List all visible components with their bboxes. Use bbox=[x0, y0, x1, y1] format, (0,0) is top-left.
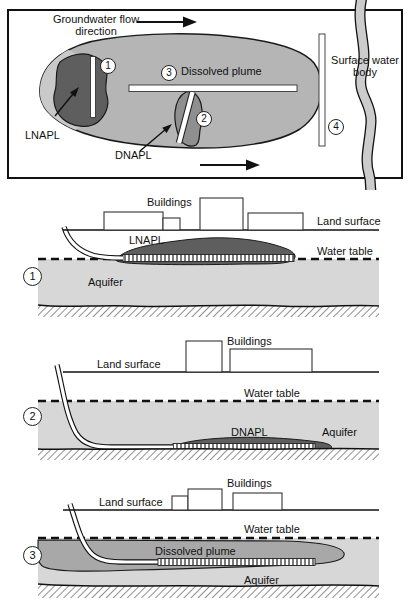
buildings-label-1: Buildings bbox=[147, 196, 192, 208]
aquifer-label-1: Aquifer bbox=[88, 276, 123, 288]
land-surface-label-2: Land surface bbox=[97, 358, 161, 370]
land-surface-label-1: Land surface bbox=[317, 215, 381, 227]
building-shape bbox=[186, 341, 222, 372]
section-2-svg bbox=[0, 330, 413, 470]
lnapl-label-plan: LNAPL bbox=[25, 129, 60, 141]
building-shape bbox=[104, 212, 163, 230]
contaminant-label-3: Dissolved plume bbox=[155, 545, 236, 557]
dissolved-plume-label-plan: Dissolved plume bbox=[181, 65, 262, 77]
well-3-bar bbox=[129, 85, 297, 92]
building-shape bbox=[163, 218, 180, 230]
water-table-label-1: Water table bbox=[317, 245, 373, 257]
aquifer-label-2: Aquifer bbox=[322, 426, 357, 438]
building-shape bbox=[200, 198, 243, 230]
building-shape bbox=[233, 493, 282, 510]
bedrock-hatch bbox=[38, 448, 379, 460]
well-1-badge: 1 bbox=[100, 58, 116, 74]
section-1-badge: 1 bbox=[23, 267, 42, 286]
well-screen bbox=[123, 255, 294, 262]
well-2-badge: 2 bbox=[196, 111, 212, 127]
land-surface-label-3: Land surface bbox=[99, 496, 163, 508]
well-pipe bbox=[64, 227, 123, 258]
well-screen bbox=[158, 559, 315, 566]
section-3-svg bbox=[0, 470, 413, 609]
building-shape bbox=[248, 213, 303, 230]
groundwater-flow-label: Groundwater flow direction bbox=[40, 13, 152, 37]
well-4-badge: 4 bbox=[328, 119, 344, 135]
contaminant-label-1: LNAPL bbox=[129, 234, 164, 246]
surface-water-label: Surface water body bbox=[325, 54, 405, 78]
well-4-bar bbox=[319, 34, 325, 146]
water-table-label-3: Water table bbox=[244, 523, 300, 535]
buildings-label-3: Buildings bbox=[227, 477, 272, 489]
building-shape bbox=[230, 349, 312, 372]
section-3-badge: 3 bbox=[23, 546, 42, 565]
aquifer-label-3: Aquifer bbox=[244, 574, 279, 586]
building-shape bbox=[188, 489, 222, 510]
contaminant-label-2: DNAPL bbox=[231, 426, 268, 438]
water-table-label-2: Water table bbox=[244, 387, 300, 399]
well-3-badge: 3 bbox=[161, 65, 177, 81]
figure-groundwater-remediation: Groundwater flow direction Dissolved plu… bbox=[0, 0, 413, 609]
well-1-bar bbox=[91, 57, 96, 118]
building-shape bbox=[172, 496, 188, 510]
section-2-badge: 2 bbox=[23, 407, 42, 426]
dnapl-label-plan: DNAPL bbox=[115, 149, 152, 161]
buildings-label-2: Buildings bbox=[227, 335, 272, 347]
